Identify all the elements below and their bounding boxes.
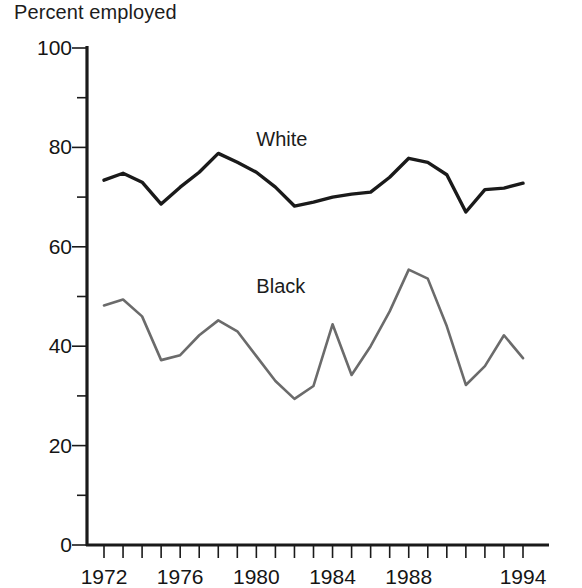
series-line-black bbox=[104, 270, 523, 399]
x-tick-label: 1994 bbox=[500, 565, 547, 588]
x-tick-label: 1980 bbox=[233, 565, 280, 588]
y-tick-label: 20 bbox=[16, 435, 72, 456]
series-label-black: Black bbox=[256, 275, 305, 298]
series-label-white: White bbox=[256, 128, 307, 151]
x-tick-label: 1972 bbox=[81, 565, 128, 588]
y-tick-label: 100 bbox=[16, 37, 72, 58]
series-line-white bbox=[104, 153, 523, 212]
x-tick-label: 1984 bbox=[309, 565, 356, 588]
axes bbox=[86, 46, 549, 546]
y-tick-label: 80 bbox=[16, 136, 72, 157]
chart-figure: Percent employed 020406080100 1972197619… bbox=[0, 0, 582, 588]
x-axis-tick-labels: 197219761980198419881994 bbox=[0, 557, 582, 587]
y-tick-label: 0 bbox=[16, 534, 72, 555]
y-tick-label: 60 bbox=[16, 236, 72, 257]
x-tick-label: 1988 bbox=[385, 565, 432, 588]
data-series-group bbox=[104, 153, 523, 399]
x-tick-label: 1976 bbox=[157, 565, 204, 588]
y-tick-label: 40 bbox=[16, 335, 72, 356]
y-axis-tick-labels: 020406080100 bbox=[16, 0, 72, 588]
